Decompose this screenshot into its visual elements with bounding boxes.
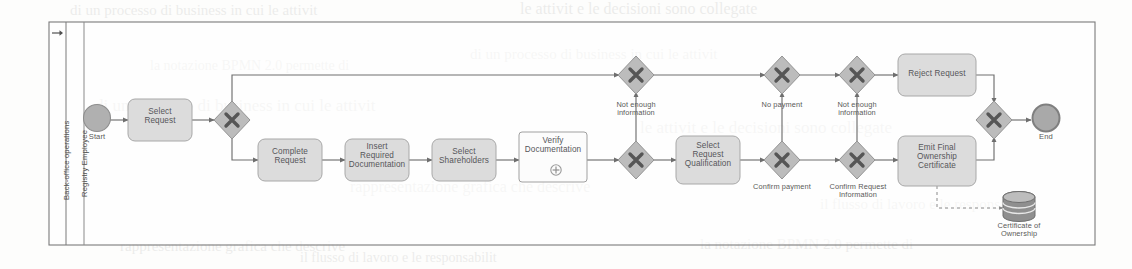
task-select-shareholders[interactable]: [432, 139, 496, 181]
bpmn-diagram-canvas: [0, 0, 1132, 269]
task-emit-final-ownership-certificate[interactable]: [898, 136, 976, 186]
task-reject-request[interactable]: [898, 54, 976, 96]
event-start[interactable]: [84, 105, 111, 132]
event-end[interactable]: [1033, 105, 1060, 132]
task-insert-required-documentation[interactable]: [345, 139, 409, 181]
subprocess-verify-documentation[interactable]: [519, 132, 587, 182]
task-select-request[interactable]: [128, 99, 192, 141]
task-complete-request[interactable]: [258, 139, 322, 181]
task-select-request-qualification[interactable]: [676, 136, 740, 184]
data-store-certificate-of-ownership[interactable]: [1003, 192, 1035, 222]
